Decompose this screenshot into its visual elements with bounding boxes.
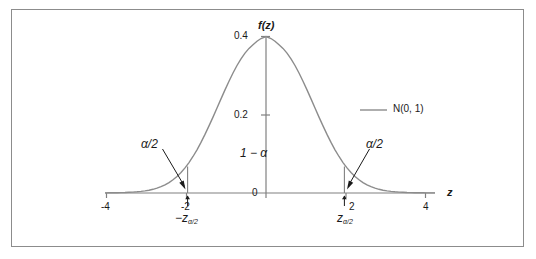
critical-value-left-base: −z — [175, 211, 188, 225]
figure-frame: f(z) z 0.4 0.2 0 -4 -2 2 4 α/2 α/2 1 − α… — [11, 9, 524, 247]
legend-entry-label: N(0, 1) — [393, 104, 424, 114]
y-tick-label-0p4: 0.4 — [234, 31, 248, 41]
y-tick-label-0p2: 0.2 — [234, 110, 248, 120]
x-tick-label-minus4: -4 — [101, 202, 110, 212]
y-tick-label-0: 0 — [252, 188, 258, 198]
x-tick-label-plus4: 4 — [423, 202, 429, 212]
critical-value-left-label: −zα/2 — [175, 212, 198, 225]
x-axis-label: z — [447, 187, 453, 198]
normal-distribution-figure: f(z) z 0.4 0.2 0 -4 -2 2 4 α/2 α/2 1 − α… — [0, 0, 536, 259]
plot-area — [12, 10, 523, 246]
alpha-left-arrow — [163, 149, 186, 190]
y-axis-label: f(z) — [258, 20, 275, 31]
critical-value-right-label: zα/2 — [337, 212, 353, 225]
x-tick-label-plus2: 2 — [349, 202, 355, 212]
alpha-over-2-right-label: α/2 — [366, 138, 383, 150]
one-minus-alpha-label: 1 − α — [240, 147, 267, 159]
critical-value-right-subscript: α/2 — [343, 218, 353, 225]
alpha-over-2-left-label: α/2 — [141, 138, 158, 150]
alpha-right-arrow — [347, 149, 370, 190]
critical-value-left-subscript: α/2 — [188, 218, 198, 225]
